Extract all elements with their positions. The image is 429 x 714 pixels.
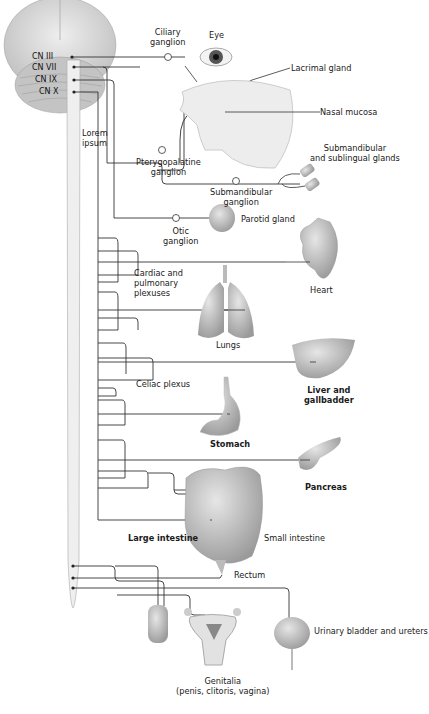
heart-label: Heart xyxy=(310,285,333,295)
eye-illustration xyxy=(200,48,232,66)
genitalia-label: Genitalia (penis, clitoris, vagina) xyxy=(176,676,269,696)
cn-x-label: CN X xyxy=(39,87,59,96)
ciliary-ganglion-label: Ciliary ganglion xyxy=(150,27,185,47)
spinal-cord xyxy=(67,60,80,608)
cn-vii-label: CN VII xyxy=(32,63,56,72)
nasal-mucosa-label: Nasal mucosa xyxy=(320,107,377,117)
nerve-label: Lorem ipsum xyxy=(82,128,108,148)
rectum-label: Rectum xyxy=(234,570,265,580)
parotid-gland-illustration xyxy=(209,204,235,232)
pterygopalatine-ganglion-label: Pterygopalatine ganglion xyxy=(136,157,201,177)
large-intestine-label: Large intestine xyxy=(128,533,198,543)
small-intestine-label: Small intestine xyxy=(264,533,325,543)
brain-illustration xyxy=(4,0,116,113)
penis-illustration xyxy=(148,605,168,643)
uterus-illustration xyxy=(184,608,241,665)
heart-illustration xyxy=(300,218,337,278)
otic-ganglion-label: Otic ganglion xyxy=(163,226,198,246)
submandibular-sublingual-label: Submandibular and sublingual glands xyxy=(310,143,400,163)
parotid-gland-label: Parotid gland xyxy=(241,214,295,224)
pancreas-label: Pancreas xyxy=(305,482,347,492)
cn-ix-label: CN IX xyxy=(35,75,57,84)
liver-label: Liver and gallbadder xyxy=(304,385,354,405)
bladder-illustration xyxy=(274,617,310,670)
urinary-bladder-label: Urinary bladder and ureters xyxy=(314,626,428,636)
lungs-illustration xyxy=(198,265,254,338)
stomach-illustration xyxy=(200,377,240,436)
submandibular-glands-illustration xyxy=(278,163,321,192)
lacrimal-gland-label: Lacrimal gland xyxy=(291,63,351,73)
cn-iii-label: CN III xyxy=(32,52,53,61)
submandibular-ganglion-label: Submandibular ganglion xyxy=(210,187,272,207)
eye-label: Eye xyxy=(209,30,224,40)
head-illustration xyxy=(180,80,293,168)
liver-illustration xyxy=(292,338,355,378)
intestines-illustration xyxy=(185,467,263,575)
pancreas-illustration xyxy=(298,437,341,470)
stomach-label: Stomach xyxy=(210,439,250,449)
cardiac-pulmonary-label: Cardiac and pulmonary plexuses xyxy=(134,268,183,298)
celiac-plexus-label: Celiac plexus xyxy=(136,379,190,389)
lungs-label: Lungs xyxy=(216,340,240,350)
